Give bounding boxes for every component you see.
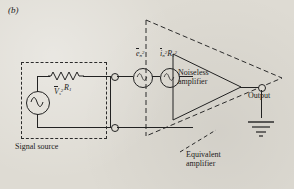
- wire-input-to-en: [117, 76, 133, 77]
- sine-wave-icon: [27, 92, 47, 112]
- wire-source-left-lower: [37, 114, 38, 128]
- noise-voltage-source-label: en2: [136, 50, 145, 59]
- equivalent-amplifier-leader: [178, 128, 218, 154]
- noiseless-amplifier-line2: amplifier: [178, 77, 207, 86]
- figure-canvas: (b) R1 Vs2 Signal source Equivalent ampl…: [0, 0, 294, 189]
- ground-icon: [248, 118, 274, 144]
- signal-ac-source: [26, 91, 50, 115]
- source-voltage-label: Vs2: [54, 88, 63, 97]
- wire-source-bottom: [37, 127, 111, 128]
- noiseless-amplifier-caption: Noiseless amplifier: [178, 68, 209, 86]
- panel-label: (b): [8, 6, 19, 15]
- output-label: Output: [248, 92, 270, 100]
- wire-ground: [261, 90, 262, 118]
- source-resistor-label: R1: [64, 84, 71, 93]
- wire-bottom-to-amp: [117, 127, 193, 128]
- sine-wave-icon: [134, 69, 150, 85]
- noiseless-amplifier-symbol: [171, 52, 245, 122]
- wire-source-left-upper: [37, 76, 38, 92]
- zigzag-resistor-icon: [48, 71, 84, 81]
- noiseless-amplifier-line1: Noiseless: [178, 68, 209, 77]
- wire-en-to-in: [152, 76, 160, 77]
- noise-voltage-source: [133, 68, 153, 88]
- equivalent-amplifier-line2: amplifier: [186, 159, 215, 168]
- signal-source-caption: Signal source: [15, 143, 58, 151]
